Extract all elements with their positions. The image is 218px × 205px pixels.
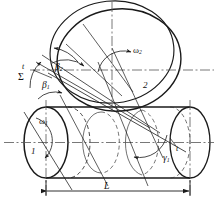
helix-line-1b <box>60 95 108 186</box>
helix-tick-2b <box>83 24 133 92</box>
omega-1-subscript: 1 <box>45 120 48 126</box>
cylinder-2-near-rim <box>52 3 186 117</box>
tangent-right-label: t <box>176 145 178 153</box>
length-label: L <box>104 181 110 191</box>
diagram-canvas <box>0 0 218 205</box>
omega-2-label: ω2 <box>133 46 142 56</box>
gamma-1-subscript: 1 <box>167 157 170 163</box>
cylinder-2-label: 2 <box>143 81 148 90</box>
omega-1-label: ω1 <box>39 117 48 127</box>
beta-1-subscript: 1 <box>47 84 50 90</box>
beta-2-subscript: 2 <box>60 66 63 72</box>
beta-1-label: β1 <box>42 81 50 91</box>
omega-2-subscript: 2 <box>139 49 142 55</box>
technical-diagram: t Σ β1 β2 ω2 ω1 γ1 t 1 2 L <box>0 0 218 205</box>
helix-line-2 <box>36 62 150 128</box>
sigma-label: Σ <box>18 72 24 82</box>
arc-beta-1 <box>38 92 62 99</box>
beta-2-label: β2 <box>55 63 63 73</box>
tangent-left-label: t <box>22 63 24 71</box>
arc-sigma <box>30 62 41 88</box>
cylinder-1-label: 1 <box>31 147 36 156</box>
gamma-1-label: γ1 <box>163 154 170 164</box>
